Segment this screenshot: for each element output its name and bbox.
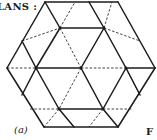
solid-line <box>126 68 140 95</box>
solid-line <box>59 109 74 127</box>
figure-caption: (a) <box>14 124 28 135</box>
lattice-node <box>80 67 83 70</box>
solid-line <box>103 109 118 127</box>
lattice-node <box>35 67 38 70</box>
solid-line <box>22 41 36 68</box>
lattice-node <box>125 67 128 70</box>
solid-line <box>81 68 103 109</box>
solid-line <box>45 2 60 28</box>
solid-line <box>81 28 104 68</box>
dashed-line <box>60 28 81 68</box>
solid-line <box>36 28 60 68</box>
hexagon-lattice-diagram <box>0 0 157 140</box>
solid-line <box>89 2 104 28</box>
lattice-node <box>59 27 62 30</box>
solid-line <box>7 68 44 127</box>
dashed-line <box>89 109 103 127</box>
dashed-line <box>60 2 75 28</box>
figure-label-fragment: F <box>146 126 153 137</box>
dashed-line <box>59 68 81 109</box>
solid-line <box>22 68 36 95</box>
solid-line <box>36 68 59 109</box>
lattice-node <box>58 108 61 111</box>
lattice-node <box>102 108 105 111</box>
lattice-node <box>103 27 106 30</box>
solid-line <box>118 68 155 127</box>
dashed-line <box>44 109 59 127</box>
solid-line <box>103 68 126 109</box>
dashed-line <box>104 2 112 28</box>
solid-line <box>118 2 155 68</box>
solid-lines <box>7 2 155 127</box>
solid-line <box>104 28 126 68</box>
dashed-line <box>22 28 60 41</box>
